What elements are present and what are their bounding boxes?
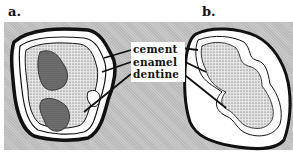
legend-enamel: enamel [133,56,183,69]
tooth-a [12,29,115,140]
legend-box: cement enamel dentine [131,42,185,82]
legend-dentine: dentine [133,68,183,81]
legend-cement: cement [133,43,183,56]
